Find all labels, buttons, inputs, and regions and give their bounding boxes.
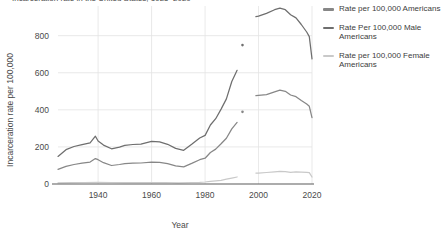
series-line-1	[58, 70, 237, 156]
chart-legend: Rate per 100,000 Americans Rate Per 100,…	[323, 4, 443, 79]
x-axis-title: Year	[171, 220, 188, 230]
series-line-2	[58, 177, 237, 183]
series-line-0	[256, 90, 312, 117]
legend-item-male[interactable]: Rate Per 100,000 Male Americans	[323, 23, 443, 42]
tick-labels-group: 020040060080019401960198020002020	[35, 31, 322, 200]
series-group	[58, 8, 312, 183]
series-line-2	[256, 171, 312, 177]
y-tick-label: 400	[35, 105, 49, 115]
x-tick-label: 1980	[196, 190, 215, 200]
annotation-point-1	[241, 111, 244, 114]
series-line-0	[58, 122, 237, 169]
y-tick-label: 800	[35, 31, 49, 41]
legend-label-female: Rate per 100,000 Female Americans	[339, 51, 443, 70]
incarceration-rate-chart-figure: Incarceration rate in the United States,…	[0, 0, 443, 237]
y-tick-label: 0	[44, 179, 49, 189]
y-axis-title: Incarceration rate per 100,000	[5, 53, 15, 167]
gridlines-group	[58, 6, 312, 184]
series-line-1	[256, 8, 312, 59]
y-tick-label: 600	[35, 68, 49, 78]
legend-label-total: Rate per 100,000 Americans	[339, 4, 440, 14]
x-tick-label: 1960	[142, 190, 161, 200]
x-tick-label: 2000	[249, 190, 268, 200]
annotation-point-0	[241, 44, 244, 47]
legend-item-female[interactable]: Rate per 100,000 Female Americans	[323, 51, 443, 70]
x-tick-label: 1940	[89, 190, 108, 200]
x-tick-label: 2020	[303, 190, 322, 200]
legend-swatch-male	[323, 27, 334, 30]
y-tick-label: 200	[35, 142, 49, 152]
legend-swatch-total	[323, 8, 334, 11]
legend-label-male: Rate Per 100,000 Male Americans	[339, 23, 443, 42]
annotation-points-group	[241, 44, 244, 113]
legend-swatch-female	[323, 55, 334, 58]
legend-item-total[interactable]: Rate per 100,000 Americans	[323, 4, 443, 14]
